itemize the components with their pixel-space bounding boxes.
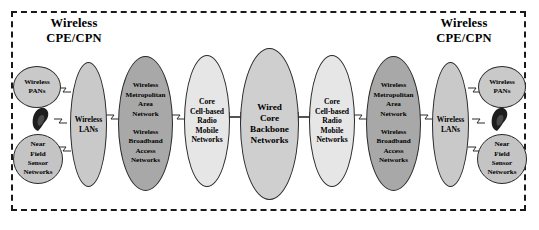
node-core-cell-based-radio-mobile-networks-left[interactable]: Core Cell-based Radio Mobile Networks <box>184 55 230 187</box>
mobile-handset-icon-left <box>30 106 52 132</box>
network-architecture-diagram: Wireless CPE/CPN Wireless CPE/CPN <box>0 0 539 230</box>
node-label: Wired Core Backbone Networks <box>248 102 291 146</box>
node-label-top: Wireless Metropolitan Area Network <box>371 81 415 119</box>
node-label: Near Field Sensor Networks <box>485 140 518 178</box>
node-wireless-lans-left[interactable]: Wireless LANs <box>70 62 107 187</box>
node-label-bottom: Wireless Broadband Access Networks <box>374 128 412 166</box>
node-wireless-pans-right[interactable]: Wireless PANs <box>478 66 526 108</box>
node-wireless-man-left[interactable]: Wireless Metropolitan Area Network Wirel… <box>118 56 173 191</box>
node-label-bottom: Wireless Broadband Access Networks <box>126 128 164 166</box>
node-label: Core Cell-based Radio Mobile Networks <box>313 97 351 144</box>
node-near-field-sensor-networks-left[interactable]: Near Field Sensor Networks <box>13 134 63 184</box>
node-wireless-pans-left[interactable]: Wireless PANs <box>13 66 61 108</box>
node-wireless-lans-right[interactable]: Wireless LANs <box>432 62 469 187</box>
link-wireless-wman-wlan-right <box>420 115 433 119</box>
link-wireless-handset-left <box>54 119 67 123</box>
node-near-field-sensor-networks-right[interactable]: Near Field Sensor Networks <box>477 134 527 184</box>
mobile-handset-icon-right <box>489 106 511 132</box>
link-wireless-core-wman-right <box>354 115 367 119</box>
node-wireless-man-right[interactable]: Wireless Metropolitan Area Network Wirel… <box>366 56 421 191</box>
node-label: Wireless LANs <box>435 115 467 134</box>
node-label-top: Wireless Metropolitan Area Network <box>123 81 167 119</box>
link-wireless-handset-right <box>472 119 485 123</box>
node-label: Wireless PANs <box>487 78 517 97</box>
node-label: Core Cell-based Radio Mobile Networks <box>188 97 226 144</box>
node-wired-core-backbone-networks[interactable]: Wired Core Backbone Networks <box>240 48 299 200</box>
link-wireless-wlan-wman-left <box>106 115 119 119</box>
node-core-cell-based-radio-mobile-networks-right[interactable]: Core Cell-based Radio Mobile Networks <box>309 55 355 187</box>
node-label: Wireless LANs <box>73 115 105 134</box>
node-label: Near Field Sensor Networks <box>21 140 54 178</box>
node-label: Wireless PANs <box>22 78 52 97</box>
